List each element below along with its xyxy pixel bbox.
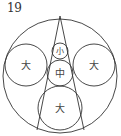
label-large-left: 大 — [21, 59, 31, 71]
label-large-right: 大 — [89, 59, 99, 71]
label-small: 小 — [56, 47, 64, 56]
sangaku-diagram: 小中大大大 — [0, 0, 121, 136]
label-medium: 中 — [55, 67, 65, 79]
label-large-bottom: 大 — [55, 102, 65, 114]
